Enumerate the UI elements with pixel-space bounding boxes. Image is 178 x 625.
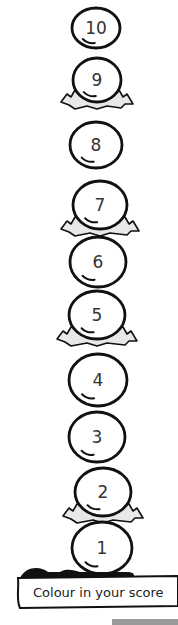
grey-strip [112, 619, 178, 625]
score-egg-stack: 10987654321 Colour in your score [0, 0, 178, 625]
egg-number: 5 [92, 305, 103, 325]
egg-number: 8 [91, 135, 102, 155]
score-egg-10[interactable]: 10 [72, 8, 120, 48]
score-egg-4[interactable]: 4 [69, 354, 127, 406]
egg-number: 7 [95, 195, 106, 215]
egg-number: 9 [92, 70, 103, 90]
score-banner: Colour in your score [18, 576, 178, 608]
banner-label: Colour in your score [33, 585, 164, 600]
egg-number: 10 [85, 18, 107, 38]
score-egg-6[interactable]: 6 [70, 237, 126, 287]
score-egg-5[interactable]: 5 [57, 291, 137, 346]
score-egg-8[interactable]: 8 [70, 122, 122, 168]
egg-stack-drawing: 10987654321 Colour in your score [0, 0, 178, 625]
score-egg-3[interactable]: 3 [69, 412, 125, 462]
score-egg-2[interactable]: 2 [63, 468, 143, 523]
egg-number: 3 [92, 427, 103, 447]
score-egg-1[interactable]: 1 [72, 522, 132, 574]
egg-number: 1 [97, 538, 108, 558]
score-egg-9[interactable]: 9 [61, 58, 133, 109]
egg-number: 4 [93, 370, 104, 390]
score-egg-7[interactable]: 7 [61, 181, 139, 236]
egg-number: 6 [93, 252, 104, 272]
egg-number: 2 [98, 482, 109, 502]
